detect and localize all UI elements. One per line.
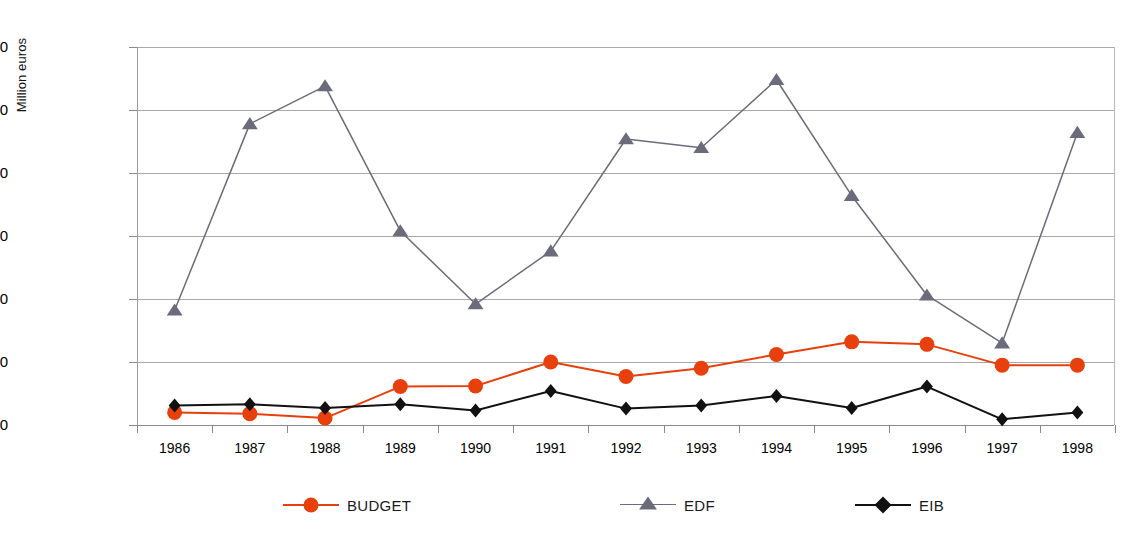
gridline bbox=[138, 299, 1114, 300]
y-tick-label: 3000 bbox=[0, 39, 8, 54]
chart-title bbox=[0, 0, 1129, 1]
y-tick-mark bbox=[129, 425, 137, 426]
x-tick-label: 1995 bbox=[812, 440, 892, 456]
x-tick-mark bbox=[363, 425, 364, 433]
x-tick-label: 1987 bbox=[210, 440, 290, 456]
x-tick-label: 1998 bbox=[1037, 440, 1117, 456]
legend-swatch bbox=[855, 496, 911, 514]
y-tick-mark bbox=[129, 173, 137, 174]
x-tick-label: 1990 bbox=[436, 440, 516, 456]
x-tick-mark bbox=[814, 425, 815, 433]
y-tick-mark bbox=[129, 236, 137, 237]
x-tick-mark bbox=[287, 425, 288, 433]
x-tick-label: 1997 bbox=[962, 440, 1042, 456]
legend-swatch bbox=[283, 496, 339, 514]
gridline bbox=[138, 236, 1114, 237]
y-axis-title: Million euros bbox=[14, 0, 29, 155]
x-tick-label: 1996 bbox=[887, 440, 967, 456]
x-tick-mark bbox=[664, 425, 665, 433]
gridlines bbox=[138, 47, 1114, 425]
triangle-marker-icon bbox=[639, 497, 657, 510]
gridline bbox=[138, 425, 1114, 426]
legend-label: BUDGET bbox=[339, 497, 411, 514]
legend-item-budget[interactable]: BUDGET bbox=[283, 496, 411, 514]
x-tick-label: 1991 bbox=[511, 440, 591, 456]
legend-swatch bbox=[620, 496, 676, 514]
y-tick-mark bbox=[129, 299, 137, 300]
legend-label: EDF bbox=[676, 497, 715, 514]
x-tick-mark bbox=[965, 425, 966, 433]
x-tick-mark bbox=[588, 425, 589, 433]
x-tick-mark bbox=[438, 425, 439, 433]
y-tick-label: 2500 bbox=[0, 102, 8, 117]
gridline bbox=[138, 47, 1114, 48]
legend-item-edf[interactable]: EDF bbox=[620, 496, 715, 514]
gridline bbox=[138, 362, 1114, 363]
circle-marker-icon bbox=[304, 498, 319, 513]
x-tick-mark bbox=[513, 425, 514, 433]
gridline bbox=[138, 110, 1114, 111]
y-tick-mark bbox=[129, 110, 137, 111]
x-tick-mark bbox=[1115, 425, 1116, 433]
diamond-marker-icon bbox=[875, 497, 892, 514]
line-chart: Million euros 050010001500200025003000 1… bbox=[0, 0, 1129, 543]
gridline bbox=[138, 173, 1114, 174]
x-tick-label: 1988 bbox=[285, 440, 365, 456]
x-tick-label: 1986 bbox=[135, 440, 215, 456]
x-tick-label: 1992 bbox=[586, 440, 666, 456]
legend-label: EIB bbox=[911, 497, 944, 514]
y-tick-label: 1500 bbox=[0, 228, 8, 243]
x-tick-mark bbox=[137, 425, 138, 433]
x-tick-mark bbox=[889, 425, 890, 433]
x-tick-mark bbox=[1040, 425, 1041, 433]
x-tick-label: 1989 bbox=[360, 440, 440, 456]
x-tick-mark bbox=[212, 425, 213, 433]
chart-legend: BUDGETEDFEIB bbox=[0, 496, 1129, 530]
y-tick-label: 1000 bbox=[0, 291, 8, 306]
y-tick-mark bbox=[129, 362, 137, 363]
x-tick-mark bbox=[739, 425, 740, 433]
y-tick-label: 0 bbox=[0, 417, 8, 432]
y-tick-mark bbox=[129, 47, 137, 48]
x-tick-label: 1994 bbox=[736, 440, 816, 456]
y-tick-label: 500 bbox=[0, 354, 8, 369]
plot-area bbox=[137, 47, 1115, 425]
y-tick-label: 2000 bbox=[0, 165, 8, 180]
x-tick-label: 1993 bbox=[661, 440, 741, 456]
legend-item-eib[interactable]: EIB bbox=[855, 496, 944, 514]
